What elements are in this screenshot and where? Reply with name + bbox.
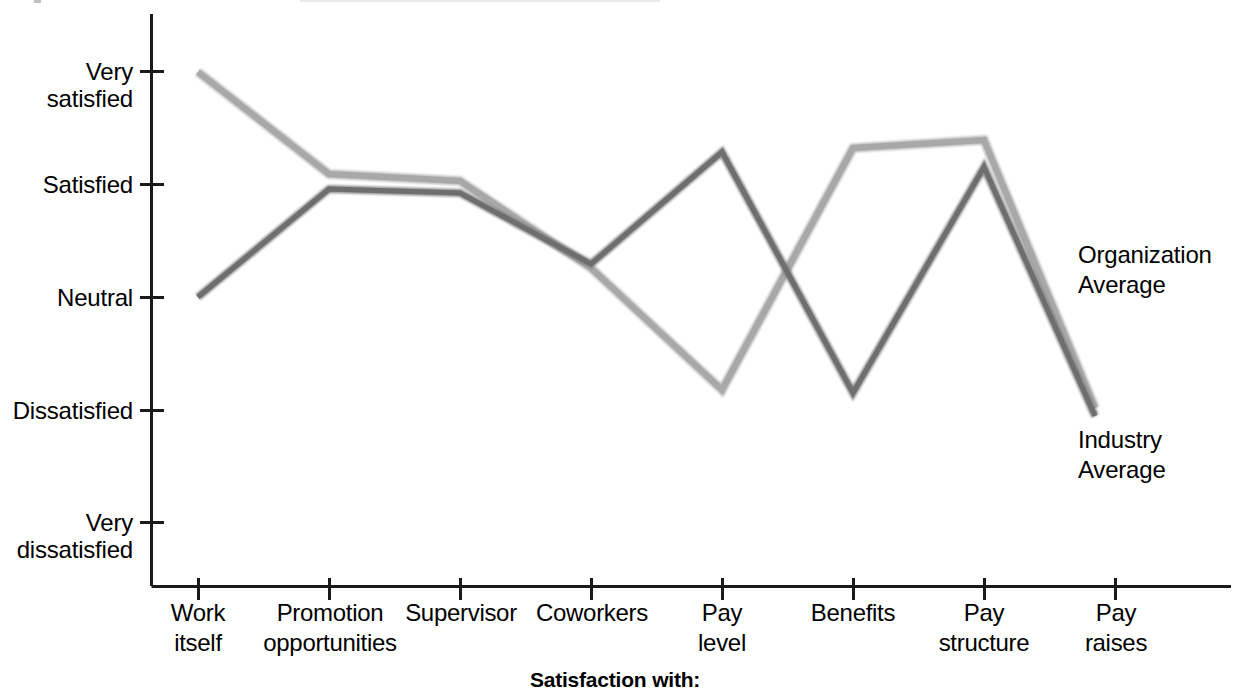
series-line-organization-average (198, 72, 1095, 408)
series-line-industry-average (198, 152, 1095, 416)
y-tick-label-very-dissatisfied: Very dissatisfied (0, 509, 133, 563)
y-tick-label-satisfied: Satisfied (0, 171, 133, 198)
x-tick-label-benefits: Benefits (788, 598, 918, 628)
x-tick-label-pay-structure: Pay structure (908, 598, 1060, 658)
chart-container: Very satisfied Satisfied Neutral Dissati… (0, 0, 1236, 691)
series-line-organization-average-shadow (198, 72, 1095, 408)
x-tick-label-pay-level: Pay level (657, 598, 787, 658)
x-tick-label-coworkers: Coworkers (525, 598, 659, 628)
x-tick-label-supervisor: Supervisor (394, 598, 528, 628)
chart-plot-area (0, 0, 1236, 691)
x-axis-title: Satisfaction with: (450, 668, 780, 691)
series-label-industry-average: Industry Average (1078, 425, 1236, 485)
x-axis-ticks (199, 578, 1116, 600)
x-tick-label-pay-raises: Pay raises (1051, 598, 1181, 658)
x-tick-label-promotion-opportunities: Promotion opportunities (244, 598, 416, 658)
y-tick-label-dissatisfied: Dissatisfied (0, 397, 133, 424)
series-label-organization-average: Organization Average (1078, 240, 1236, 300)
y-tick-label-very-satisfied: Very satisfied (0, 58, 133, 112)
y-tick-label-neutral: Neutral (0, 284, 133, 311)
